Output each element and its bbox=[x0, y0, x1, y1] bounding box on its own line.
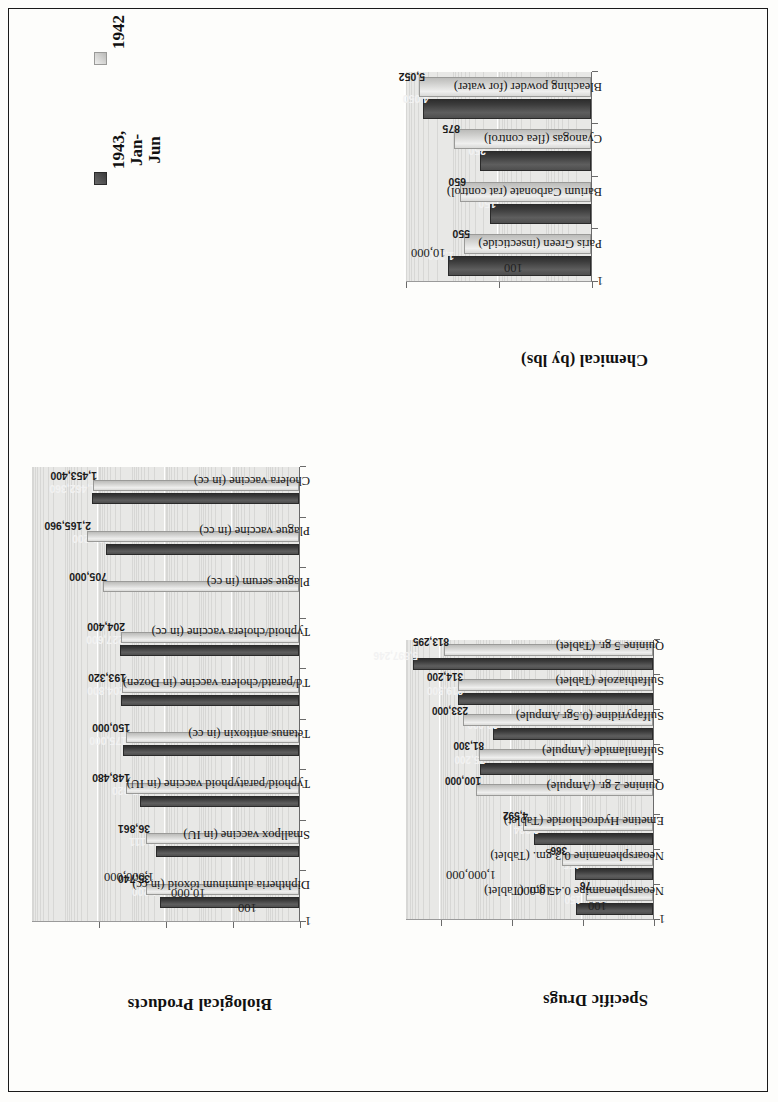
bar-value-label: 227,600 bbox=[86, 634, 124, 646]
category-label: Paris Green (insecticide) bbox=[478, 236, 602, 251]
chart-specific-drugs: Specific Drugs150761553662,2344,592100,0… bbox=[398, 460, 728, 1030]
bar-body bbox=[423, 99, 591, 119]
bar-value-label: 2,165,960 bbox=[44, 520, 91, 532]
category-label: Quinine 5 gr. (Tablet) bbox=[556, 638, 664, 653]
bar-value-label: 193,320 bbox=[88, 672, 126, 684]
bar-1943: 32,000 bbox=[493, 728, 653, 740]
y-tick-mark bbox=[499, 282, 500, 288]
y-tick-mark bbox=[406, 282, 407, 288]
category-label: Barium Carbonate (rat control) bbox=[447, 184, 602, 199]
y-tick-label: 1,000,000 bbox=[446, 867, 496, 882]
bar-body bbox=[493, 728, 653, 740]
category-label: Emetine Hydrochloride (Tablet) bbox=[504, 813, 664, 828]
legend-swatch-1942 bbox=[94, 52, 107, 65]
bar-1943: 175,000 bbox=[123, 745, 299, 756]
bar-value-label: 5,897,246 bbox=[374, 650, 419, 661]
bar-1943: 75,200 bbox=[480, 763, 653, 775]
category-label: Plague vaccine (in cc) bbox=[199, 523, 310, 538]
bar-body bbox=[413, 658, 653, 670]
y-tick-mark bbox=[512, 920, 513, 926]
bar-value-label: 150,000 bbox=[92, 722, 130, 734]
bar-1943: 227,600 bbox=[120, 645, 299, 656]
chart-title: Specific Drugs bbox=[543, 990, 648, 1010]
x-tick-mark bbox=[592, 124, 598, 125]
x-tick-mark bbox=[592, 176, 598, 177]
category-label: Typhoid/paratyphoid vaccine (in IU) bbox=[127, 776, 310, 791]
x-tick-mark bbox=[300, 820, 306, 821]
bar-1943: 155 bbox=[575, 868, 653, 880]
category-label: Bleaching powder (for water) bbox=[454, 79, 602, 94]
x-tick-mark bbox=[300, 618, 306, 619]
y-tick-mark bbox=[233, 922, 234, 928]
chart-chemical-by-lbs: Chemical (by lbs)1,2005501506502508754,0… bbox=[398, 10, 728, 390]
category-label: Tetanus antitoxin (in cc) bbox=[188, 726, 310, 741]
legend-label: 1942 bbox=[110, 15, 128, 49]
x-tick-mark bbox=[300, 870, 306, 871]
bar-body bbox=[92, 493, 299, 504]
x-tick-mark bbox=[654, 709, 660, 710]
y-tick-mark bbox=[300, 922, 301, 928]
bar-value-label: 1,462,360 bbox=[50, 483, 97, 495]
bar-value-label: 705,000 bbox=[69, 571, 107, 583]
chart-title: Biological Products bbox=[127, 994, 272, 1014]
x-tick-mark bbox=[654, 674, 660, 675]
category-label: Sulfanilamide (Ampule) bbox=[542, 743, 664, 758]
x-tick-mark bbox=[654, 639, 660, 640]
bar-value-label: 175,000 bbox=[89, 735, 127, 747]
bar-body bbox=[490, 204, 591, 224]
bar-value-label: 36,861 bbox=[118, 823, 150, 835]
x-tick-mark bbox=[300, 668, 306, 669]
bar-1943: 4,050 bbox=[423, 99, 591, 119]
bar-body bbox=[575, 868, 653, 880]
bar-1943: 2,234 bbox=[534, 833, 653, 845]
category-label: Cyanogas (flea control) bbox=[484, 131, 602, 146]
bar-1943: 1,462,360 bbox=[92, 493, 299, 504]
bar-body bbox=[458, 693, 653, 705]
category-label: Cholera vaccine (in cc) bbox=[194, 473, 310, 488]
y-tick-mark bbox=[583, 920, 584, 926]
y-tick-label: 100 bbox=[588, 898, 607, 913]
x-tick-mark bbox=[592, 281, 598, 282]
screenshot-page: 1943, Jan- Jun1942 Biological Products14… bbox=[0, 0, 778, 1102]
category-label: Plague serum (in cc) bbox=[207, 574, 310, 589]
y-tick-mark bbox=[654, 920, 655, 926]
x-tick-mark bbox=[592, 71, 598, 72]
bar-1943: 566,200 bbox=[106, 544, 299, 555]
bar-value-label: 813,295 bbox=[412, 636, 448, 647]
bar-value-label: 875 bbox=[443, 123, 461, 135]
x-tick-mark bbox=[654, 849, 660, 850]
y-tick-mark bbox=[99, 922, 100, 928]
category-label: Smallpox vaccine (in IU) bbox=[183, 827, 310, 842]
y-tick-label: 10,000 bbox=[411, 245, 445, 260]
bar-value-label: 148,480 bbox=[92, 772, 130, 784]
x-tick-mark bbox=[300, 466, 306, 467]
legend-swatch-1943 bbox=[94, 172, 107, 185]
category-label: Td/paratd/cholera vaccine (in Dozen) bbox=[123, 675, 310, 690]
y-tick-label: 100 bbox=[238, 900, 257, 915]
bar-1943: 57,320 bbox=[140, 796, 299, 807]
bar-1943: 18,111 bbox=[156, 846, 299, 857]
x-tick-mark bbox=[300, 567, 306, 568]
x-tick-mark bbox=[654, 744, 660, 745]
y-tick-mark bbox=[441, 920, 442, 926]
chart-title: Chemical (by lbs) bbox=[521, 350, 648, 370]
y-tick-mark bbox=[592, 282, 593, 288]
chart-legend: 1943, Jan- Jun1942 bbox=[88, 45, 348, 185]
bar-body bbox=[480, 151, 592, 171]
category-label: Sulfapyridine (0.5gr Ampule) bbox=[516, 708, 664, 723]
bar-body bbox=[120, 645, 299, 656]
bar-1943: 150 bbox=[490, 204, 591, 224]
category-label: Sulfathiazole (Tablet) bbox=[556, 673, 664, 688]
category-label: Neoarsphenamine 0.3 gm. (Tablet) bbox=[490, 848, 664, 863]
category-label: Typhoid/cholera vaccine (in cc) bbox=[152, 624, 310, 639]
bar-body bbox=[121, 695, 299, 706]
bar-1943: 5,897,246 bbox=[413, 658, 653, 670]
x-tick-mark bbox=[592, 229, 598, 230]
bar-1943: 204,800 bbox=[121, 695, 299, 706]
x-tick-mark bbox=[300, 517, 306, 518]
bar-body bbox=[534, 833, 653, 845]
bar-value-label: 550 bbox=[452, 228, 470, 240]
bar-body bbox=[140, 796, 299, 807]
bar-body bbox=[480, 763, 653, 775]
bar-body bbox=[156, 846, 299, 857]
